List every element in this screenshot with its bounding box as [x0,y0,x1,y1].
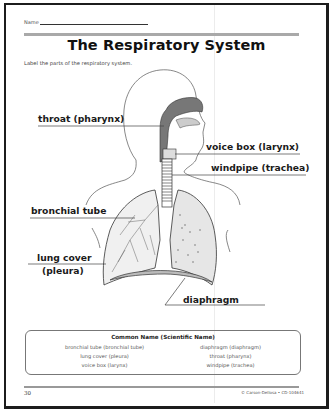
word-bank-item: diaphragm (diaphragm) [178,343,283,352]
word-bank-item: lung cover (pleura) [52,352,157,361]
word-bank-left-column: bronchial tube (bronchial tube) lung cov… [52,343,157,371]
larynx-shape [163,149,176,159]
label-bronchial-tube: bronchial tube [31,205,106,216]
label-pleura: (pleura) [42,265,84,276]
label-throat: throat (pharynx) [38,113,124,124]
label-voice-box: voice box (larynx) [206,141,299,152]
right-lung [170,190,216,285]
word-bank-title: Common Name (Scientific Name) [26,334,300,340]
word-bank: Common Name (Scientific Name) bronchial … [25,330,301,375]
word-bank-right-column: diaphragm (diaphragm) throat (pharynx) w… [178,343,283,371]
label-windpipe: windpipe (trachea) [211,162,309,173]
label-lung-cover: lung cover [37,252,92,263]
word-bank-item: bronchial tube (bronchial tube) [52,343,157,352]
copyright: © Carson-Dellosa • CD-104641 [241,390,304,395]
word-bank-item: voice box (larynx) [52,361,157,370]
word-bank-item: windpipe (trachea) [178,361,283,370]
trachea-shape [162,159,172,207]
page-number: 30 [24,390,31,396]
word-bank-item: throat (pharynx) [178,352,283,361]
footer-rule [24,386,299,388]
label-diaphragm: diaphragm [183,294,239,305]
